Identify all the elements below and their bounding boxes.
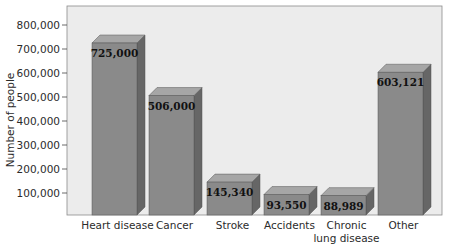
bar-top-face xyxy=(92,35,145,43)
y-tick-label: 400,000 xyxy=(17,115,60,127)
bar: 145,340 xyxy=(206,174,260,215)
x-category-label: Chronic xyxy=(327,219,367,231)
y-axis: 100,000200,000300,000400,000500,000600,0… xyxy=(17,19,67,199)
bar-value-label: 725,000 xyxy=(91,47,139,59)
bar: 603,121 xyxy=(377,64,431,215)
bar: 88,989 xyxy=(321,188,374,215)
bar: 93,550 xyxy=(264,187,317,215)
y-tick-label: 700,000 xyxy=(17,43,60,55)
bar-top-face xyxy=(264,187,317,195)
y-tick-label: 600,000 xyxy=(17,67,60,79)
bar-front-face xyxy=(149,96,194,215)
x-axis-labels: Heart diseaseCancerStrokeAccidentsChroni… xyxy=(81,219,419,244)
y-tick-label: 800,000 xyxy=(17,19,60,31)
bar-value-label: 88,989 xyxy=(323,200,363,212)
y-tick-label: 100,000 xyxy=(17,187,60,199)
bar-value-label: 93,550 xyxy=(266,199,306,211)
x-category-label: Cancer xyxy=(156,219,194,231)
bar-value-label: 145,340 xyxy=(206,186,254,198)
bar: 506,000 xyxy=(148,88,202,215)
bar-side-face xyxy=(137,35,145,215)
y-axis-label: Number of people xyxy=(4,73,16,168)
bar-front-face xyxy=(92,43,137,215)
bar-top-face xyxy=(207,174,260,182)
y-tick-label: 300,000 xyxy=(17,139,60,151)
bar-top-face xyxy=(378,64,431,72)
y-tick-label: 200,000 xyxy=(17,163,60,175)
x-category-label: Heart disease xyxy=(81,219,153,231)
bar-top-face xyxy=(149,88,202,96)
bar-value-label: 603,121 xyxy=(377,76,425,88)
bar-front-face xyxy=(378,72,423,215)
bar-value-label: 506,000 xyxy=(148,100,196,112)
bar: 725,000 xyxy=(91,35,145,215)
bar-chart: 100,000200,000300,000400,000500,000600,0… xyxy=(0,0,449,249)
x-category-label: Stroke xyxy=(216,219,249,231)
y-tick-label: 500,000 xyxy=(17,91,60,103)
x-category-label: lung disease xyxy=(313,232,379,244)
x-category-label: Accidents xyxy=(264,219,315,231)
bar-top-face xyxy=(321,188,374,196)
x-category-label: Other xyxy=(389,219,419,231)
